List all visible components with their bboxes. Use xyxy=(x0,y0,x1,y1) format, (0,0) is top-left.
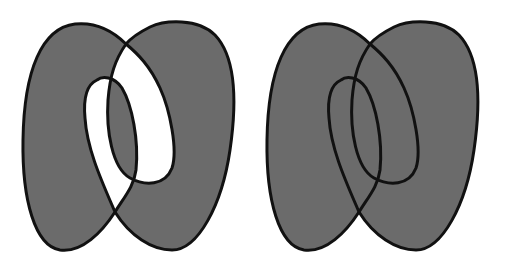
figure-nonzero xyxy=(267,22,478,250)
evenodd-shape xyxy=(23,22,234,250)
nonzero-outer-shape xyxy=(267,22,478,250)
diagram-canvas xyxy=(0,0,505,268)
figure-evenodd xyxy=(23,22,234,250)
